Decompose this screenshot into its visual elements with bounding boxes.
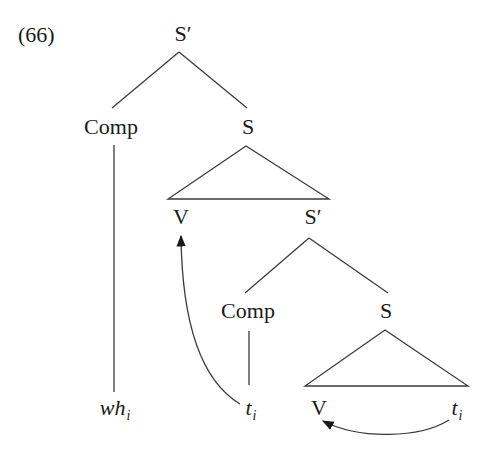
tree-edges (0, 0, 494, 449)
edge-sbar2-comp2 (245, 238, 309, 293)
node-comp-lower: Comp (221, 300, 275, 322)
leaf-base: wh (100, 395, 126, 420)
node-s-lower: S (380, 300, 392, 322)
leaf-base: t (245, 395, 251, 420)
leaf-index: i (126, 408, 130, 423)
leaf-index: i (253, 408, 257, 423)
movement-arrow-to-v2 (323, 420, 449, 434)
prime-mark: ′ (187, 21, 192, 46)
leaf-trace-object: ti (451, 397, 462, 422)
node-label: S (304, 204, 316, 229)
triangle-s1 (168, 146, 329, 199)
edge-root-s1 (179, 52, 247, 108)
leaf-wh-i: whi (100, 397, 131, 422)
syntax-tree-diagram: (66) S′ Comp S V S′ Comp S V whi ti ti (0, 0, 494, 449)
edge-sbar2-s2 (309, 238, 388, 293)
node-v-lower: V (311, 397, 327, 419)
node-s-upper: S (242, 116, 254, 138)
example-number: (66) (18, 24, 55, 46)
triangle-s2 (305, 330, 468, 386)
node-label: S (174, 21, 186, 46)
prime-mark: ′ (317, 204, 322, 229)
leaf-index: i (459, 408, 463, 423)
node-comp-upper: Comp (84, 116, 138, 138)
node-sbar-lower: S′ (304, 206, 321, 228)
leaf-trace-comp: ti (245, 397, 256, 422)
node-v-upper: V (173, 206, 189, 228)
edge-root-comp1 (112, 52, 179, 108)
node-sbar-root: S′ (174, 23, 191, 45)
leaf-base: t (451, 395, 457, 420)
